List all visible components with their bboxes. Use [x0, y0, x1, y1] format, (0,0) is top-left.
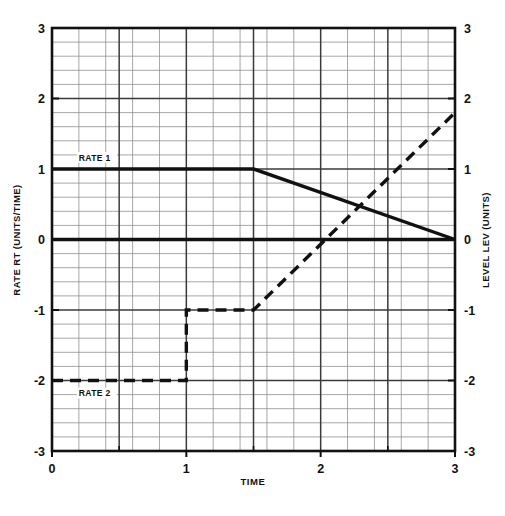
y-tick-label-left: 1: [38, 163, 45, 177]
y-tick-label-right: 2: [464, 92, 471, 106]
x-tick-label: 1: [183, 462, 190, 476]
x-tick-label: 3: [452, 462, 459, 476]
y-tick-label-right: -1: [464, 304, 475, 318]
series-annotation: RATE 1: [79, 153, 111, 163]
y-tick-label-left: 3: [38, 22, 45, 36]
chart-canvas: 0123-3-3-2-2-1-100112233 RATE 1RATE 2 TI…: [0, 0, 505, 516]
y-tick-label-right: 1: [464, 163, 471, 177]
y-tick-label-right: 0: [464, 233, 471, 247]
y-tick-label-left: -3: [34, 445, 45, 459]
y-tick-label-right: -3: [464, 445, 475, 459]
chart-figure: 0123-3-3-2-2-1-100112233 RATE 1RATE 2 TI…: [0, 0, 505, 516]
y-tick-label-left: 2: [38, 92, 45, 106]
series-annotation: RATE 2: [79, 388, 111, 398]
y-tick-label-right: -2: [464, 374, 475, 388]
y-tick-label-right: 3: [464, 22, 471, 36]
x-tick-label: 0: [49, 462, 56, 476]
y-tick-label-left: 0: [38, 233, 45, 247]
figure-background: [0, 0, 505, 516]
y-axis-title-left: RATE RT (UNITS/TIME): [11, 184, 22, 295]
y-tick-label-left: -2: [34, 374, 45, 388]
x-tick-label: 2: [317, 462, 324, 476]
x-axis-title: TIME: [240, 476, 265, 487]
y-axis-title-right: LEVEL LEV (UNITS): [480, 192, 491, 288]
y-tick-label-left: -1: [34, 304, 45, 318]
